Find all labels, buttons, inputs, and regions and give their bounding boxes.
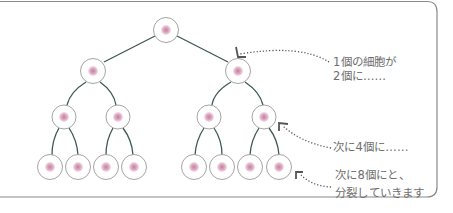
annotation-1-line2: 2個に…… [333, 69, 397, 83]
annotation-3-line1: 次に8個にと、 [335, 166, 425, 184]
annotation-3: 次に8個にと、 分裂していきます [335, 166, 425, 202]
annotation-1-line1: 1個の細胞が [333, 55, 397, 69]
cell-level-1 [81, 59, 251, 84]
dotted-arrow-3 [301, 175, 331, 187]
nucleus-icon [161, 25, 171, 35]
annotation-2-line1: 次に4個に…… [333, 140, 409, 154]
annotation-2: 次に4個に…… [333, 140, 409, 154]
cell-level-0 [154, 18, 179, 43]
dotted-arrow-1 [240, 50, 329, 62]
dotted-arrow-2 [283, 126, 331, 148]
cells [38, 18, 292, 180]
cell-level-3 [38, 155, 292, 180]
arrowhead-1 [236, 47, 246, 57]
annotation-1: 1個の細胞が 2個に…… [333, 55, 397, 83]
annotation-3-line2: 分裂していきます [335, 184, 425, 202]
cell-level-2 [52, 105, 276, 129]
